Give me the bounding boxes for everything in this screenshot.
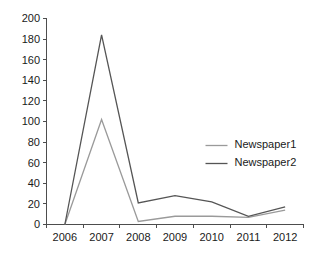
legend-label-newspaper2: Newspaper2 [235, 156, 297, 168]
y-tick-label: 120 [22, 95, 40, 107]
y-tick-label: 20 [28, 198, 40, 210]
chart-legend: Newspaper1Newspaper2 [206, 138, 297, 168]
y-axis-ticks [43, 19, 47, 225]
x-axis-ticks [47, 225, 304, 229]
y-tick-label: 160 [22, 54, 40, 66]
y-tick-label: 0 [34, 218, 40, 230]
x-axis: 2006200720082009201020112012 [47, 225, 304, 243]
legend-label-newspaper1: Newspaper1 [235, 138, 297, 150]
line-chart: 020406080100120140160180200 200620072008… [0, 0, 317, 255]
y-axis-tick-labels: 020406080100120140160180200 [22, 12, 40, 230]
x-tick-label: 2007 [89, 231, 113, 243]
series-lines [65, 35, 285, 225]
x-axis-tick-labels: 2006200720082009201020112012 [53, 231, 298, 243]
x-tick-label: 2009 [163, 231, 187, 243]
y-tick-label: 180 [22, 33, 40, 45]
x-tick-label: 2008 [126, 231, 150, 243]
x-tick-label: 2006 [53, 231, 77, 243]
y-tick-label: 200 [22, 12, 40, 24]
x-tick-label: 2012 [273, 231, 297, 243]
y-tick-label: 100 [22, 115, 40, 127]
y-axis: 020406080100120140160180200 [22, 12, 47, 230]
y-tick-label: 60 [28, 157, 40, 169]
chart-canvas: 020406080100120140160180200 200620072008… [0, 0, 317, 255]
x-tick-label: 2011 [237, 231, 261, 243]
y-tick-label: 40 [28, 177, 40, 189]
series-line-newspaper1 [65, 119, 285, 224]
y-tick-label: 80 [28, 136, 40, 148]
y-tick-label: 140 [22, 74, 40, 86]
x-tick-label: 2010 [199, 231, 223, 243]
